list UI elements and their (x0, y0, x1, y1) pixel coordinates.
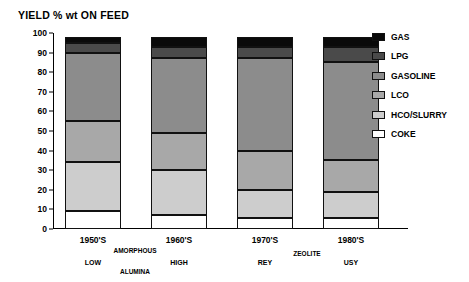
bar-segment-gasoline[interactable] (323, 62, 379, 160)
legend-item-gas[interactable]: GAS (372, 27, 468, 47)
y-axis-tick-mark (49, 33, 53, 34)
x-axis-label-1950s: 1950'S (53, 236, 133, 245)
x-axis-sublabel-high: HIGH (139, 259, 219, 266)
bar-segment-lco[interactable] (65, 121, 121, 162)
bar-segment-gasoline[interactable] (151, 58, 207, 132)
bar-segment-lpg[interactable] (65, 43, 121, 53)
x-axis-sublabel-usy: USY (311, 259, 391, 266)
chart-root: YIELD % wt ON FEED 010203040506070809010… (0, 0, 469, 282)
bar-segment-lpg[interactable] (151, 47, 207, 59)
x-axis-group-label-amorphous: AMORPHOUS (93, 248, 177, 255)
legend-label: COKE (391, 130, 416, 139)
bar-segment-gas[interactable] (237, 37, 293, 47)
legend-label: HCO/SLURRY (391, 111, 447, 120)
legend-swatch-icon (372, 130, 385, 138)
legend-swatch-icon (372, 91, 385, 99)
bar-segment-gas[interactable] (65, 37, 121, 43)
bar-segment-coke[interactable] (151, 215, 207, 229)
y-axis-tick-mark (49, 52, 53, 53)
legend-swatch-icon (372, 52, 385, 60)
bar-segment-hcoslurry[interactable] (323, 192, 379, 218)
bar-segment-lpg[interactable] (323, 47, 379, 63)
bar-segment-gas[interactable] (323, 37, 379, 47)
legend-item-lpg[interactable]: LPG (372, 47, 468, 67)
bar-1950s[interactable] (65, 33, 121, 229)
bar-segment-lco[interactable] (323, 160, 379, 191)
bar-segment-lco[interactable] (237, 151, 293, 190)
bar-segment-gas[interactable] (151, 37, 207, 47)
legend-item-gasoline[interactable]: GASOLINE (372, 66, 468, 86)
bar-segment-coke[interactable] (237, 218, 293, 229)
bar-segment-hcoslurry[interactable] (65, 162, 121, 211)
plot-area: 0102030405060708090100 (53, 33, 408, 229)
x-axis-sublabel-rey: REY (225, 259, 305, 266)
legend-label: LCO (391, 91, 409, 100)
x-axis-sublabel-low: LOW (53, 259, 133, 266)
bar-segment-hcoslurry[interactable] (151, 170, 207, 215)
legend-label: GASOLINE (391, 72, 435, 81)
x-axis-label-1980s: 1980'S (311, 236, 391, 245)
bar-segment-lpg[interactable] (237, 47, 293, 59)
y-axis-tick-mark (49, 189, 53, 190)
legend-label: GAS (391, 33, 409, 42)
legend-item-hcoslurry[interactable]: HCO/SLURRY (372, 105, 468, 125)
legend-swatch-icon (372, 33, 385, 41)
legend-swatch-icon (372, 72, 385, 80)
legend-label: LPG (391, 52, 408, 61)
chart-title: YIELD % wt ON FEED (18, 9, 129, 21)
y-axis-tick-mark (49, 150, 53, 151)
bar-1970s[interactable] (237, 33, 293, 229)
bar-segment-hcoslurry[interactable] (237, 190, 293, 218)
bar-segment-gasoline[interactable] (65, 53, 121, 122)
bar-segment-gasoline[interactable] (237, 58, 293, 150)
y-axis-tick-mark (49, 131, 53, 132)
x-axis-group-label-zeolite: ZEOLITE (265, 251, 349, 258)
bar-segment-lco[interactable] (151, 133, 207, 170)
bar-segment-coke[interactable] (323, 218, 379, 229)
y-axis-tick-mark (49, 111, 53, 112)
bar-1980s[interactable] (323, 33, 379, 229)
legend-swatch-icon (372, 111, 385, 119)
legend-item-coke[interactable]: COKE (372, 125, 468, 145)
chart-legend: GASLPGGASOLINELCOHCO/SLURRYCOKE (372, 27, 468, 144)
y-axis-tick-mark (49, 229, 53, 230)
x-axis-label-1970s: 1970'S (225, 236, 305, 245)
y-axis-tick-mark (49, 72, 53, 73)
bar-segment-coke[interactable] (65, 211, 121, 229)
y-axis-tick-mark (49, 91, 53, 92)
bar-1960s[interactable] (151, 33, 207, 229)
x-axis-label-1960s: 1960'S (139, 236, 219, 245)
legend-item-lco[interactable]: LCO (372, 86, 468, 106)
x-axis-group-label-alumina: ALUMINA (93, 269, 177, 276)
y-axis-tick-mark (49, 170, 53, 171)
y-axis-tick-mark (49, 209, 53, 210)
